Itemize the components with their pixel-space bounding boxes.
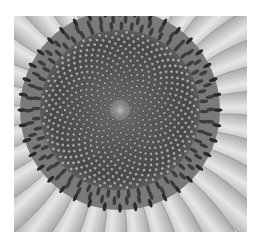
sunflower-illustration <box>14 16 247 232</box>
sunflower-photo <box>14 16 247 232</box>
